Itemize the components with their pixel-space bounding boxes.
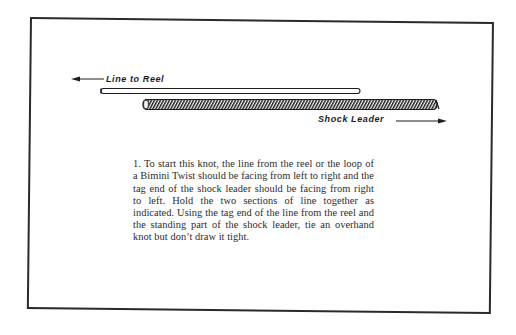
arrow-left-icon — [71, 77, 104, 82]
line-from-reel — [101, 89, 360, 94]
knot-diagram: Line to Reel Shock Leader — [0, 0, 516, 140]
step-text: To start this knot, the line from the re… — [133, 158, 374, 242]
arrow-right-icon — [396, 119, 447, 124]
step-number: 1. — [133, 158, 141, 169]
line-to-reel-label: Line to Reel — [106, 74, 164, 84]
shock-leader-label: Shock Leader — [318, 114, 384, 124]
step-caption: 1. To start this knot, the line from the… — [133, 158, 374, 243]
shock-leader-line — [143, 100, 439, 110]
knot-diagram-svg — [0, 0, 516, 140]
